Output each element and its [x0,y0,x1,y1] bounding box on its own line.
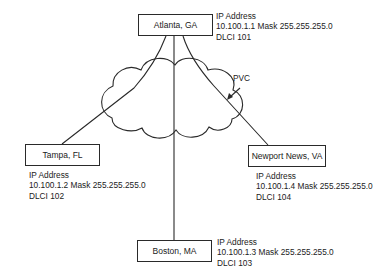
frame-relay-cloud [102,58,243,138]
node-atlanta-label: Atlanta, GA [154,20,197,30]
info-atlanta: IP Address 10.100.1.1 Mask 255.255.255.0… [216,11,333,42]
info-newport-news-title: IP Address [256,171,373,181]
info-newport-news-dlci: DLCI 104 [256,192,373,202]
node-newport-news-label: Newport News, VA [252,151,323,161]
info-tampa-title: IP Address [29,170,146,180]
info-newport-news: IP Address 10.100.1.4 Mask 255.255.255.0… [256,171,373,202]
info-tampa-ip: 10.100.1.2 Mask 255.255.255.0 [29,180,146,190]
node-atlanta: Atlanta, GA [138,14,213,36]
info-boston: IP Address 10.100.1.3 Mask 255.255.255.0… [217,237,334,268]
node-tampa-label: Tampa, FL [42,150,82,160]
info-atlanta-dlci: DLCI 101 [216,32,333,42]
node-tampa: Tampa, FL [25,144,100,166]
info-tampa: IP Address 10.100.1.2 Mask 255.255.255.0… [29,170,146,201]
info-atlanta-ip: 10.100.1.1 Mask 255.255.255.0 [216,21,333,31]
node-newport-news: Newport News, VA [248,145,326,167]
info-tampa-dlci: DLCI 102 [29,191,146,201]
info-boston-dlci: DLCI 103 [217,258,334,268]
info-boston-title: IP Address [217,237,334,247]
pvc-arrowhead-icon [227,93,233,100]
info-newport-news-ip: 10.100.1.4 Mask 255.255.255.0 [256,181,373,191]
node-boston-label: Boston, MA [153,246,197,256]
node-boston: Boston, MA [137,240,212,262]
pvc-label: PVC [233,73,250,83]
info-atlanta-title: IP Address [216,11,333,21]
link-atlanta-tampa [62,36,166,144]
info-boston-ip: 10.100.1.3 Mask 255.255.255.0 [217,247,334,257]
